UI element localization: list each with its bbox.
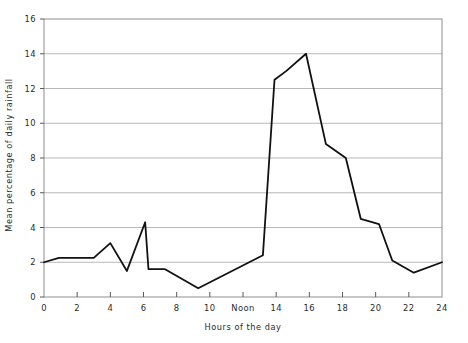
y-tick-label: 8 [30, 153, 36, 163]
x-tick-label: 0 [41, 303, 47, 313]
x-tick-label: 18 [337, 303, 348, 313]
x-tick-label: 20 [370, 303, 381, 313]
x-tick-label: 16 [304, 303, 315, 313]
x-tick-label: 14 [270, 303, 281, 313]
x-tick-label: 6 [141, 303, 147, 313]
x-tick-label: Noon [231, 303, 254, 313]
x-axis-ticks: 0246810Noon141618202224 [41, 292, 448, 313]
x-tick-label: 10 [204, 303, 215, 313]
y-tick-label: 16 [25, 14, 36, 24]
y-tick-label: 4 [30, 223, 36, 233]
x-tick-label: 2 [74, 303, 80, 313]
y-tick-label: 6 [30, 188, 36, 198]
y-axis-ticks: 0246810121416 [25, 14, 44, 302]
y-tick-label: 14 [25, 49, 36, 59]
x-tick-label: 24 [436, 303, 447, 313]
x-tick-label: 4 [107, 303, 113, 313]
x-tick-label: 8 [174, 303, 180, 313]
rainfall-line-chart: Mean percentage of daily rainfall 024681… [0, 0, 468, 343]
y-tick-label: 0 [30, 292, 36, 302]
y-tick-label: 10 [25, 118, 36, 128]
x-tick-label: 22 [403, 303, 414, 313]
y-tick-label: 2 [30, 257, 36, 267]
x-axis-title: Hours of the day [44, 322, 442, 332]
plot-area: 0246810121416 0246810Noon141618202224 [0, 0, 468, 343]
y-tick-label: 12 [25, 84, 36, 94]
